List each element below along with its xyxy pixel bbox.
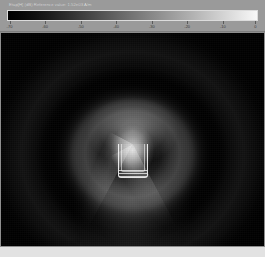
colorbar-ticklabel: -20 (184, 24, 190, 30)
colorbar-ticklabel: -50 (78, 24, 84, 30)
antenna-inner-wall (121, 144, 145, 172)
antenna-bar (119, 176, 147, 177)
colorbar-gradient-frame[interactable] (7, 10, 258, 21)
colorbar-ticklabels: -70-60-50-40-30-20-100 (7, 24, 258, 32)
field-raster (0, 32, 265, 247)
colorbar-panel: Etap[H] (dB) Reference value: 1.52e03 A/… (0, 0, 265, 32)
raster-noise (0, 32, 265, 247)
antenna-bar (119, 170, 147, 171)
colorbar-ticklabel: -40 (113, 24, 119, 30)
colorbar-gradient (8, 11, 257, 20)
antenna-bar (119, 173, 147, 174)
colorbar-ticklabel: -60 (42, 24, 48, 30)
bottom-strip (0, 247, 265, 257)
antenna-structure[interactable] (118, 144, 148, 184)
colorbar-ticklabel: -30 (149, 24, 155, 30)
colorbar-title: Etap[H] (dB) Reference value: 1.52e03 A/… (9, 2, 92, 7)
colorbar-ticklabel: -70 (7, 24, 13, 30)
colorbar-ticklabel: 0 (254, 24, 256, 30)
field-plot-area[interactable] (0, 32, 265, 247)
colorbar-ticklabel: -10 (220, 24, 226, 30)
field-plot-window: Etap[H] (dB) Reference value: 1.52e03 A/… (0, 0, 265, 257)
